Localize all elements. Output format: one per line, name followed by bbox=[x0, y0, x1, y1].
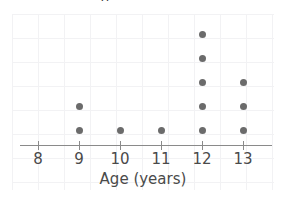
x-axis-tick bbox=[243, 141, 244, 150]
plot-area: 8910111213 Age (years) bbox=[0, 0, 286, 201]
data-dot bbox=[199, 31, 206, 38]
x-axis-tick-label: 12 bbox=[182, 150, 222, 168]
data-dot bbox=[76, 127, 83, 134]
x-axis-tick bbox=[202, 141, 203, 150]
data-dot bbox=[199, 103, 206, 110]
x-axis-tick-label: 11 bbox=[141, 150, 181, 168]
data-dot bbox=[158, 127, 165, 134]
x-axis-tick bbox=[79, 141, 80, 150]
x-axis-tick-label: 8 bbox=[18, 150, 58, 168]
data-dot bbox=[240, 103, 247, 110]
x-axis-tick bbox=[161, 141, 162, 150]
data-dot bbox=[76, 103, 83, 110]
data-dot bbox=[117, 127, 124, 134]
dot-plot-figure: g 8910111213 Age (years) bbox=[0, 0, 286, 201]
x-axis-tick-label: 9 bbox=[59, 150, 99, 168]
x-axis-tick-label: 10 bbox=[100, 150, 140, 168]
x-axis-line bbox=[20, 145, 272, 146]
data-dot bbox=[240, 79, 247, 86]
data-dot bbox=[199, 79, 206, 86]
x-axis-tick bbox=[38, 141, 39, 150]
x-axis-title: Age (years) bbox=[0, 170, 286, 188]
x-axis-tick-label: 13 bbox=[223, 150, 263, 168]
x-axis-tick bbox=[120, 141, 121, 150]
data-dot bbox=[199, 127, 206, 134]
data-dot bbox=[240, 127, 247, 134]
data-dot bbox=[199, 55, 206, 62]
